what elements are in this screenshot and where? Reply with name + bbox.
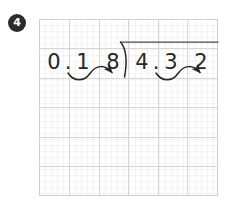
grid-line-horizontal bbox=[39, 107, 218, 108]
grid-line-horizontal bbox=[39, 195, 218, 196]
worksheet-page: 4 0 . 1 8 4 . 3 2 bbox=[0, 0, 228, 213]
grid-line-horizontal bbox=[39, 166, 218, 167]
grid-line-horizontal bbox=[39, 78, 218, 79]
grid-paper bbox=[39, 19, 218, 196]
grid-line-horizontal bbox=[39, 48, 218, 49]
grid-line-horizontal bbox=[39, 19, 218, 20]
grid-line-horizontal bbox=[39, 137, 218, 138]
problem-number-badge: 4 bbox=[8, 14, 26, 32]
